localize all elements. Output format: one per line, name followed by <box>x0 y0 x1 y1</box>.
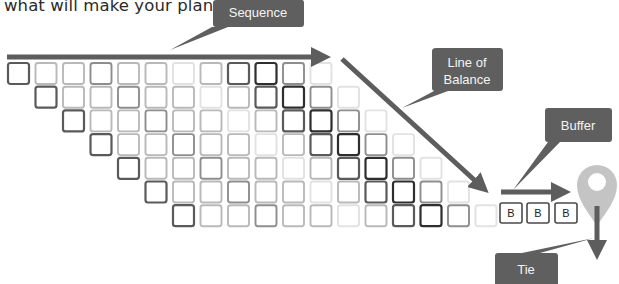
buffer-label: Buffer <box>561 118 596 133</box>
activity-square <box>338 87 359 108</box>
activity-square <box>91 110 112 131</box>
activity-square <box>91 87 112 108</box>
activity-square <box>366 182 387 203</box>
activity-square <box>283 182 304 203</box>
activity-square <box>201 110 222 131</box>
activity-square <box>118 110 139 131</box>
activity-square <box>173 134 194 155</box>
activity-square <box>118 134 139 155</box>
buffer-box-label: B <box>534 207 541 219</box>
activity-square <box>393 205 414 226</box>
activity-square <box>256 134 277 155</box>
activity-square <box>448 182 469 203</box>
activity-square <box>311 182 332 203</box>
activity-square <box>201 182 222 203</box>
activity-square <box>146 182 167 203</box>
activity-square <box>173 87 194 108</box>
activity-square <box>173 110 194 131</box>
buffer-box-label: B <box>562 207 569 219</box>
activity-square <box>283 134 304 155</box>
buffer-boxes: B B B <box>500 203 577 223</box>
activity-square <box>366 134 387 155</box>
activity-square <box>63 110 84 131</box>
activity-square <box>256 158 277 179</box>
activity-square <box>201 205 222 226</box>
activity-square <box>311 158 332 179</box>
activity-square <box>146 87 167 108</box>
activity-square <box>338 134 359 155</box>
activity-square <box>173 158 194 179</box>
line-of-balance-callout: Line of Balance <box>402 48 503 108</box>
activity-square <box>311 63 332 84</box>
activity-square <box>366 110 387 131</box>
buffer-box-label: B <box>507 207 514 219</box>
activity-square <box>173 63 194 84</box>
activity-square <box>201 134 222 155</box>
activity-square <box>338 110 359 131</box>
activity-square <box>63 63 84 84</box>
activity-square <box>393 158 414 179</box>
activity-square <box>256 87 277 108</box>
activity-square <box>421 158 442 179</box>
activity-square <box>228 134 249 155</box>
activity-square <box>173 182 194 203</box>
activity-square <box>228 205 249 226</box>
activity-square <box>146 110 167 131</box>
activity-square <box>256 205 277 226</box>
sequence-label: Sequence <box>229 5 288 20</box>
activity-square <box>476 205 497 226</box>
activity-square <box>338 205 359 226</box>
activity-square <box>91 134 112 155</box>
activity-square <box>393 134 414 155</box>
activity-square <box>173 205 194 226</box>
activity-square <box>36 87 57 108</box>
activity-square <box>283 205 304 226</box>
activity-square <box>63 87 84 108</box>
line-of-balance-label-line1: Line of <box>447 55 486 70</box>
activity-square <box>283 63 304 84</box>
activity-square <box>8 63 29 84</box>
activity-square <box>421 205 442 226</box>
activity-square <box>91 63 112 84</box>
line-of-balance-diagram: B B B Sequence Line of Balance Buffer Ti… <box>0 0 619 284</box>
tie-callout: Tie <box>495 238 594 284</box>
activity-square <box>36 63 57 84</box>
activity-square <box>338 158 359 179</box>
activity-square <box>311 205 332 226</box>
activity-square <box>311 134 332 155</box>
activity-square <box>256 182 277 203</box>
activity-square <box>118 87 139 108</box>
activity-square <box>228 158 249 179</box>
activity-square <box>448 205 469 226</box>
activity-square <box>118 158 139 179</box>
activity-square <box>146 134 167 155</box>
activity-square <box>146 158 167 179</box>
activity-square <box>118 63 139 84</box>
activity-square <box>393 182 414 203</box>
tie-label: Tie <box>517 262 535 277</box>
activity-square <box>338 182 359 203</box>
activity-square <box>283 158 304 179</box>
activity-square <box>228 63 249 84</box>
activity-square <box>228 110 249 131</box>
line-of-balance-label-line2: Balance <box>444 72 491 87</box>
sequence-callout: Sequence <box>170 0 304 50</box>
activity-square <box>311 87 332 108</box>
activity-grid <box>8 63 497 226</box>
activity-square <box>201 87 222 108</box>
activity-square <box>311 110 332 131</box>
activity-square <box>256 63 277 84</box>
activity-square <box>366 158 387 179</box>
activity-square <box>228 182 249 203</box>
activity-square <box>256 110 277 131</box>
activity-square <box>283 87 304 108</box>
activity-square <box>201 158 222 179</box>
activity-square <box>228 87 249 108</box>
activity-square <box>283 110 304 131</box>
activity-square <box>146 63 167 84</box>
activity-square <box>201 63 222 84</box>
activity-square <box>366 205 387 226</box>
activity-square <box>421 182 442 203</box>
